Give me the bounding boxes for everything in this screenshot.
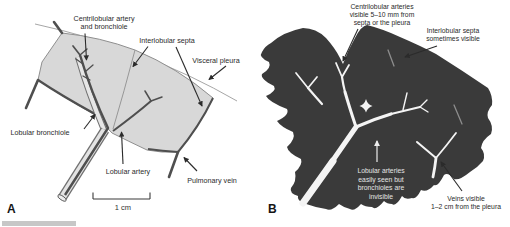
- pulmonary-vein-branch: [169, 152, 178, 177]
- scale-bar: [93, 193, 150, 200]
- panel-b-letter: B: [268, 202, 277, 216]
- label-lobular-arteries-3: bronchioles are: [358, 184, 405, 191]
- label-lobular-bronchiole: Lobular bronchiole: [10, 128, 69, 137]
- label-centrilobular-arteries-2: visible 5–10 mm from: [350, 11, 415, 18]
- arrow-pulmonary-vein: [184, 158, 197, 172]
- vein-left-branch: [26, 80, 38, 108]
- label-pulmonary-vein: Pulmonary vein: [187, 176, 237, 185]
- label-interlobular-septa-b-2: sometimes visible: [426, 35, 480, 42]
- label-interlobular-septa-b-1: Interlobular septa: [427, 27, 480, 35]
- figure-canvas: Centrilobular artery and bronchiole Inte…: [0, 0, 510, 226]
- label-lobular-arteries-1: Lobular arteries: [357, 167, 405, 174]
- panel-b: Centrilobular arteries visible 5–10 mm f…: [261, 3, 501, 217]
- label-veins-visible-2: 1–2 cm from the pleura: [431, 203, 501, 211]
- arrow-visceral-pleura: [209, 66, 226, 80]
- arrow-lobular-bronchiole: [84, 115, 95, 130]
- pulmonary-lobule-figure: Centrilobular artery and bronchiole Inte…: [0, 0, 510, 226]
- label-lobular-arteries-4: invisible: [369, 193, 393, 200]
- label-centrilobular-artery-2: and bronchiole: [80, 22, 127, 31]
- panel-a: Centrilobular artery and bronchiole Inte…: [2, 14, 240, 227]
- panel-a-letter: A: [7, 202, 16, 216]
- vein-top-stub: [54, 22, 62, 33]
- label-centrilobular-arteries-3: septa or the pleura: [354, 19, 411, 27]
- label-centrilobular-arteries-1: Centrilobular arteries: [350, 3, 414, 10]
- bottom-left-bar: [2, 221, 76, 226]
- label-veins-visible-1: Veins visible: [447, 195, 485, 202]
- label-visceral-pleura: Visceral pleura: [192, 56, 239, 65]
- label-lobular-artery: Lobular artery: [106, 167, 151, 176]
- label-interlobular-septa: Interlobular septa: [139, 36, 195, 45]
- scale-bar-label: 1 cm: [115, 203, 131, 212]
- label-lobular-arteries-2: easily seen but: [358, 176, 403, 184]
